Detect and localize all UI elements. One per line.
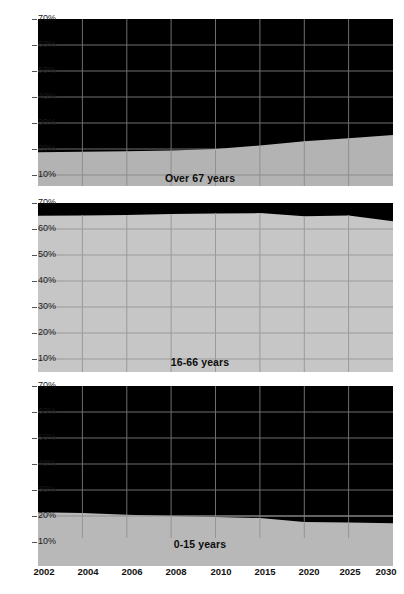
xtick-2030: 2030 <box>375 566 396 577</box>
ytick-dash-p1-50 <box>32 71 37 72</box>
ytick-dash-p1-70 <box>32 19 37 20</box>
ytick-dash-p1-20 <box>32 149 37 150</box>
ytick-dash-p3-40 <box>32 464 37 465</box>
ytick-dash-p1-30 <box>32 123 37 124</box>
ytick-dash-p2-40 <box>32 281 37 282</box>
ytick-dash-p1-40 <box>32 97 37 98</box>
area-series-0-15-years <box>38 386 393 538</box>
xtick-2025: 2025 <box>339 566 360 577</box>
area-series-over-67-years <box>38 19 393 186</box>
ytick-dash-p3-30 <box>32 490 37 491</box>
panel-over-67-years: 70% 60% 50% 40% 30% 20% 10% Over 67 year… <box>0 0 404 186</box>
xtick-2015: 2015 <box>254 566 275 577</box>
series-label-16-66-years: 16-66 years <box>140 356 260 368</box>
panel-16-66-years: 70% 60% 50% 40% 30% 20% 10% 16-66 years <box>0 186 404 372</box>
plot-area-over-67-years <box>38 19 393 186</box>
panel-0-15-years: 70% 60% 50% 40% 30% 20% 10% 0-15 years <box>0 372 404 566</box>
ytick-dash-p2-50 <box>32 255 37 256</box>
plot-area-16-66-years <box>38 203 393 372</box>
ytick-dash-p2-30 <box>32 307 37 308</box>
plot-area-0-15-years <box>38 386 393 538</box>
population-age-distribution-chart: 70% 60% 50% 40% 30% 20% 10% Over 67 year… <box>0 0 404 594</box>
ytick-dash-p2-20 <box>32 333 37 334</box>
x-axis: 2002 2004 2006 2008 2010 2015 2020 2025 … <box>0 566 404 590</box>
ytick-dash-p3-60 <box>32 412 37 413</box>
xtick-2010: 2010 <box>210 566 231 577</box>
ytick-dash-p3-20 <box>32 516 37 517</box>
series-label-0-15-years: 0-15 years <box>140 538 260 550</box>
xtick-2008: 2008 <box>165 566 186 577</box>
ytick-dash-p2-70 <box>32 203 37 204</box>
ytick-dash-p3-50 <box>32 438 37 439</box>
ytick-dash-p2-10 <box>32 359 37 360</box>
series-label-over-67-years: Over 67 years <box>140 172 260 184</box>
xtick-2006: 2006 <box>121 566 142 577</box>
area-series-16-66-years <box>38 203 393 372</box>
ytick-dash-p3-10 <box>32 542 37 543</box>
xtick-2020: 2020 <box>298 566 319 577</box>
xtick-2004: 2004 <box>77 566 98 577</box>
ytick-dash-p1-60 <box>32 45 37 46</box>
xtick-2002: 2002 <box>33 566 54 577</box>
ytick-dash-p3-70 <box>32 386 37 387</box>
ytick-dash-p1-10 <box>32 175 37 176</box>
ytick-dash-p2-60 <box>32 229 37 230</box>
